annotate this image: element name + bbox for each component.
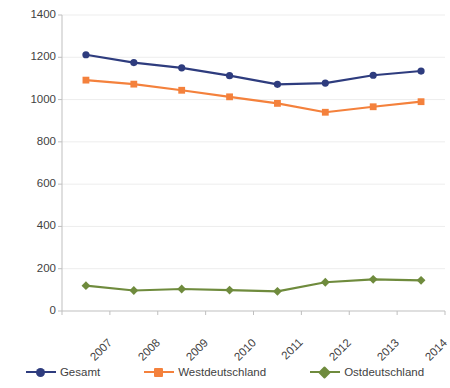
y-axis-tick-label: 200 [12, 263, 56, 275]
y-axis-labels: 0200400600800100012001400 [6, 15, 56, 311]
legend-marker-circle-icon [36, 368, 45, 377]
data-point [322, 79, 329, 86]
data-point [369, 275, 378, 284]
data-point [130, 59, 137, 66]
data-point [226, 72, 233, 79]
x-axis-labels: 20072008200920102011201220132014 [62, 313, 445, 357]
y-axis-tick-label: 800 [12, 136, 56, 148]
data-point [177, 285, 186, 294]
data-point [178, 87, 185, 94]
x-axis-tick-label: 2008 [154, 319, 180, 345]
data-series-layer [82, 51, 426, 296]
data-point [82, 281, 91, 290]
legend-item-gesamt[interactable]: Gesamt [26, 366, 100, 378]
data-point [130, 81, 137, 88]
data-point [321, 278, 330, 287]
data-point [322, 109, 329, 116]
legend-item-ostdeutschland[interactable]: Ostdeutschland [310, 366, 424, 378]
gridlines [62, 15, 445, 269]
x-axis-tick-label: 2007 [106, 319, 132, 345]
data-point [370, 103, 377, 110]
series-ostdeutschland [82, 275, 426, 296]
y-axis-tick-label: 1400 [12, 9, 56, 21]
series-westdeutschland [83, 77, 425, 116]
data-point [417, 276, 426, 285]
data-point [273, 287, 282, 296]
legend-label: Westdeutschland [178, 366, 266, 378]
y-axis-tick-label: 0 [12, 305, 56, 317]
y-axis-tick-label: 1000 [12, 94, 56, 106]
legend-label: Ostdeutschland [344, 366, 424, 378]
x-axis-tick-label: 2012 [346, 319, 372, 345]
y-axis-tick-label: 600 [12, 178, 56, 190]
data-point [417, 67, 424, 74]
line-chart: 0200400600800100012001400 20072008200920… [0, 0, 450, 388]
data-point [178, 64, 185, 71]
y-axis-tick-label: 400 [12, 221, 56, 233]
y-axis-tick-label: 1200 [12, 52, 56, 64]
legend-swatch-icon [144, 366, 174, 378]
data-point [274, 100, 281, 107]
data-point [370, 72, 377, 79]
data-point [274, 81, 281, 88]
x-axis-tick-label: 2013 [394, 319, 420, 345]
y-axis-ticks [58, 15, 62, 311]
data-point [418, 98, 425, 105]
legend-swatch-icon [310, 366, 340, 378]
legend-item-westdeutschland[interactable]: Westdeutschland [144, 366, 266, 378]
data-point [225, 286, 234, 295]
x-axis-tick-label: 2009 [202, 319, 228, 345]
data-point [226, 93, 233, 100]
data-point [129, 286, 138, 295]
legend-swatch-icon [26, 366, 56, 378]
legend-label: Gesamt [60, 366, 100, 378]
legend-marker-square-icon [154, 368, 163, 377]
legend-marker-diamond-icon [318, 366, 331, 379]
chart-legend: GesamtWestdeutschlandOstdeutschland [0, 360, 450, 384]
x-axis-tick-label: 2010 [250, 319, 276, 345]
x-axis-tick-label: 2011 [298, 319, 324, 345]
data-point [82, 51, 89, 58]
data-point [83, 77, 90, 84]
